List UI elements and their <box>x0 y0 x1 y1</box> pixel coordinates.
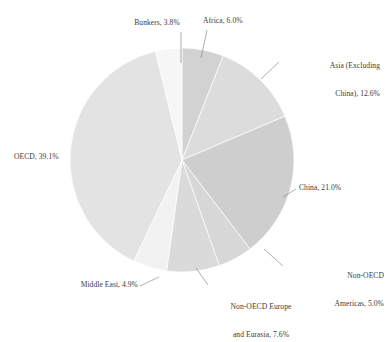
slice-label-asia-line2: China), 12.6% <box>262 89 380 98</box>
slice-label-asia-line1: Asia (Excluding <box>262 61 380 70</box>
slice-label-non-oecd-europe-line2: and Eurasia, 7.6% <box>205 330 317 339</box>
slice-label-oecd: OECD, 39.1% <box>14 152 94 161</box>
slice-label-china: China, 21.0% <box>299 183 385 192</box>
slice-label-non-oecd-americas-line1: Non-OECD <box>278 271 384 280</box>
slice-label-africa: Africa, 6.0% <box>203 16 293 25</box>
slice-label-bunkers: Bunkers, 3.8% <box>115 18 199 27</box>
pie-slices <box>70 48 294 272</box>
slice-label-non-oecd-europe-line1: Non-OECD Europe <box>205 302 317 311</box>
slice-label-asia: Asia (Excluding China), 12.6% <box>262 42 380 117</box>
leader-line-middle-east <box>140 277 159 286</box>
slice-label-non-oecd-europe: Non-OECD Europe and Eurasia, 7.6% <box>205 283 317 342</box>
slice-label-middle-east: Middle East, 4.9% <box>42 280 138 289</box>
